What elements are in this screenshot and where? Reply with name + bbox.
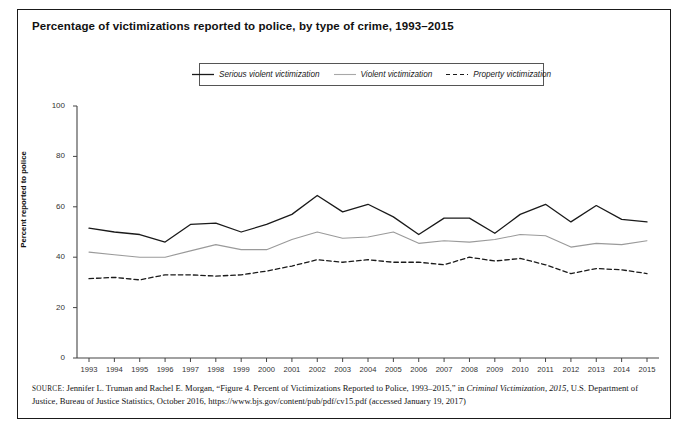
source-publication-title: Criminal Victimization, 2015, xyxy=(467,383,569,393)
legend-label-property: Property victimization xyxy=(473,70,551,79)
figure-root: Percentage of victimizations reported to… xyxy=(0,0,684,426)
legend-label-violent: Violent victimization xyxy=(361,70,433,79)
y-tick-20: 20 xyxy=(39,303,65,312)
source-note: SOURCE: Jennifer L. Truman and Rachel E.… xyxy=(32,382,656,407)
legend-label-serious-violent: Serious violent victimization xyxy=(219,70,320,79)
y-axis-title: Percent reported to police xyxy=(19,130,28,270)
legend-item-violent[interactable]: Violent victimization xyxy=(334,70,433,79)
source-label: SOURCE: xyxy=(32,385,64,393)
legend-item-serious-violent[interactable]: Serious violent victimization xyxy=(192,70,320,79)
y-tick-80: 80 xyxy=(39,151,65,160)
line-dashed-icon xyxy=(446,70,468,79)
chart-legend: Serious violent victimization Violent vi… xyxy=(199,63,544,86)
x-tick-2015: 2015 xyxy=(627,365,667,374)
legend-item-property[interactable]: Property victimization xyxy=(446,70,551,79)
source-text-a: Jennifer L. Truman and Rachel E. Morgan,… xyxy=(64,383,466,393)
line-solid-icon xyxy=(192,70,214,79)
y-tick-40: 40 xyxy=(39,252,65,261)
line-solid-light-icon xyxy=(334,70,356,79)
y-tick-60: 60 xyxy=(39,202,65,211)
y-tick-100: 100 xyxy=(39,101,65,110)
y-tick-0: 0 xyxy=(39,353,65,362)
page-title: Percentage of victimizations reported to… xyxy=(32,20,632,32)
